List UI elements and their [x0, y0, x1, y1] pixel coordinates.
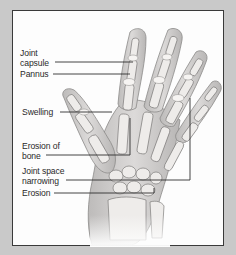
hand-illustration	[0, 0, 236, 255]
label-pannus: Pannus	[20, 69, 49, 79]
label-joint-capsule: Joint capsule	[20, 48, 49, 68]
label-swelling: Swelling	[22, 107, 53, 117]
label-erosion-of-bone: Erosion of bone	[22, 141, 60, 161]
label-erosion: Erosion	[22, 188, 50, 198]
label-joint-space-narrowing: Joint space narrowing	[22, 166, 64, 186]
